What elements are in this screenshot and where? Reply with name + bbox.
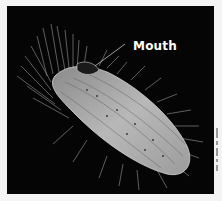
- mouth-pointer-line: [95, 44, 125, 66]
- photo-credit-text: [215, 128, 219, 196]
- ciliate-illustration: [7, 6, 214, 194]
- micrograph-panel: Mouth: [7, 6, 214, 194]
- mouth-label: Mouth: [133, 39, 177, 53]
